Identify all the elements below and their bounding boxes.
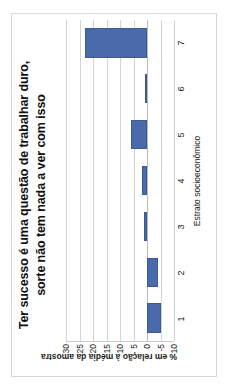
bar (144, 212, 147, 241)
x-axis-tick-label: 4 (176, 158, 186, 204)
x-axis-tick-labels: 1234567 (176, 20, 186, 342)
x-axis-tick-label: 1 (176, 296, 186, 342)
chart-title-line-2: sorte não tem nada a ver com isso (33, 14, 50, 376)
chart-frame: Ter sucesso é uma questão de trabalhar d… (11, 13, 217, 377)
chart-title: Ter sucesso é uma questão de trabalhar d… (16, 14, 50, 376)
bar-cell (66, 20, 174, 66)
scanned-page: Ter sucesso é uma questão de trabalhar d… (0, 0, 228, 389)
x-axis-tick-label: 7 (176, 20, 186, 66)
x-axis-title: Estrato socioeconômico (192, 20, 202, 342)
bar-cell (66, 112, 174, 158)
x-axis-tick-label: 6 (176, 66, 186, 112)
bar-series (66, 20, 174, 341)
bar (142, 166, 147, 195)
bar (131, 120, 147, 149)
chart-title-line-1: Ter sucesso é uma questão de trabalhar d… (16, 14, 33, 376)
x-axis-tick-label: 3 (176, 204, 186, 250)
bar (147, 258, 158, 287)
bar-cell (66, 249, 174, 295)
y-axis-title: % em relação à média da amostra (14, 352, 204, 362)
bar-cell (66, 158, 174, 204)
x-axis-tick-label: 5 (176, 112, 186, 158)
bar-cell (66, 66, 174, 112)
x-axis-tick-label: 2 (176, 250, 186, 296)
bar-cell (66, 203, 174, 249)
bar (147, 303, 161, 332)
bar-cell (66, 295, 174, 341)
plot-area: -10-5051015202530 (66, 20, 174, 342)
bar (145, 74, 147, 103)
bar (85, 28, 147, 57)
bar-chart: Ter sucesso é uma questão de trabalhar d… (12, 14, 216, 376)
gridline (174, 20, 175, 341)
chart-rotation-wrapper: Ter sucesso é uma questão de trabalhar d… (12, 14, 216, 376)
